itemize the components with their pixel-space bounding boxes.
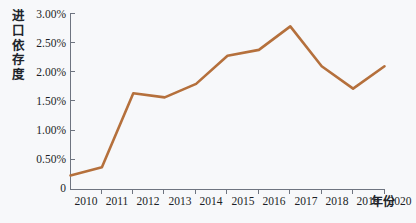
x-axis-title: 年份: [371, 196, 395, 208]
